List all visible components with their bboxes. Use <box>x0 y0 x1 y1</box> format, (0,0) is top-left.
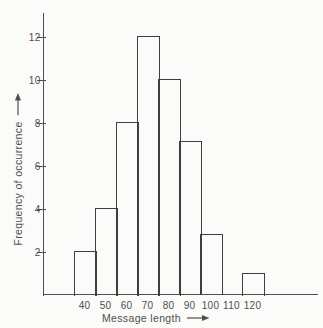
histogram-bar <box>158 79 181 296</box>
up-arrow-icon <box>14 92 22 115</box>
x-tick-label: 120 <box>239 300 267 311</box>
y-tick-label: 4 <box>12 203 41 217</box>
histogram-bar <box>179 141 202 295</box>
histogram-bar <box>74 251 97 296</box>
x-axis-label: Message length <box>102 312 210 324</box>
histogram-bar <box>242 273 265 296</box>
y-tick-label: 6 <box>12 160 41 174</box>
y-tick-label: 12 <box>12 31 41 45</box>
histogram-bar <box>137 36 160 296</box>
y-tick-label: 2 <box>12 246 41 260</box>
y-tick-label: 10 <box>12 74 41 88</box>
histogram-bar <box>200 234 223 296</box>
histogram-figure: Frequency of occurrence Message length 2… <box>0 0 323 328</box>
y-axis-label-text: Frequency of occurrence <box>12 121 24 245</box>
histogram-bar <box>95 208 118 296</box>
x-axis-label-text: Message length <box>102 312 181 324</box>
right-arrow-icon <box>187 314 210 322</box>
y-tick-label: 8 <box>12 117 41 131</box>
plot-area: Frequency of occurrence Message length 2… <box>0 0 323 328</box>
histogram-bar <box>116 122 139 296</box>
